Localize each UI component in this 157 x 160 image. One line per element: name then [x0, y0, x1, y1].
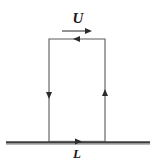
velocity-label: U [73, 10, 85, 26]
circulation-diagram: U L [0, 0, 157, 160]
length-label: L [72, 146, 81, 160]
contour-interior [49, 39, 105, 142]
figure-container: U L [0, 0, 157, 160]
